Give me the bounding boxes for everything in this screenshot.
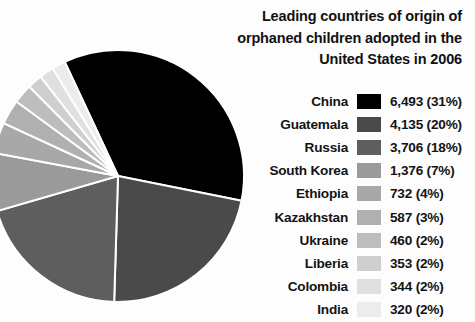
legend-label: Colombia	[246, 279, 348, 294]
legend-row: Guatemala4,135 (20%)	[246, 113, 475, 136]
legend-value: 460 (2%)	[390, 233, 444, 248]
legend-row: Ethiopia732 (4%)	[246, 182, 475, 205]
chart-figure: Leading countries of origin of orphaned …	[0, 0, 475, 322]
legend-value: 4,135 (20%)	[390, 117, 462, 132]
legend-label: China	[246, 94, 348, 109]
legend-label: Kazakhstan	[246, 210, 348, 225]
legend-value: 344 (2%)	[390, 279, 444, 294]
legend-label: Ukraine	[246, 233, 348, 248]
legend-row: India320 (2%)	[246, 298, 475, 321]
pie-chart-svg	[0, 0, 250, 322]
legend-row: Russia3,706 (18%)	[246, 136, 475, 159]
legend-color-swatch	[357, 210, 381, 225]
chart-title: Leading countries of origin of orphaned …	[230, 6, 462, 71]
legend-color-swatch	[357, 256, 381, 271]
legend-color-swatch	[357, 186, 381, 201]
legend-value: 320 (2%)	[390, 302, 444, 317]
legend-label: Liberia	[246, 256, 348, 271]
legend-row: Kazakhstan587 (3%)	[246, 205, 475, 228]
legend-color-swatch	[357, 233, 381, 248]
legend-value: 587 (3%)	[390, 210, 444, 225]
legend-color-swatch	[357, 163, 381, 178]
pie-chart	[0, 0, 250, 322]
legend-value: 6,493 (31%)	[390, 94, 462, 109]
chart-title-line-1: Leading countries of origin of	[230, 6, 462, 28]
legend-row: Ukraine460 (2%)	[246, 229, 475, 252]
chart-title-line-2: orphaned children adopted in the	[230, 28, 462, 50]
legend-color-swatch	[357, 117, 381, 132]
legend-color-swatch	[357, 302, 381, 317]
legend-color-swatch	[357, 140, 381, 155]
legend-value: 353 (2%)	[390, 256, 444, 271]
legend-row: China6,493 (31%)	[246, 90, 475, 113]
legend-row: South Korea1,376 (7%)	[246, 159, 475, 182]
legend-label: Ethiopia	[246, 186, 348, 201]
legend-value: 732 (4%)	[390, 186, 444, 201]
legend-value: 3,706 (18%)	[390, 140, 462, 155]
legend-value: 1,376 (7%)	[390, 163, 455, 178]
legend-label: Guatemala	[246, 117, 348, 132]
legend-label: South Korea	[246, 163, 348, 178]
legend-color-swatch	[357, 94, 381, 109]
legend-row: Liberia353 (2%)	[246, 252, 475, 275]
legend-color-swatch	[357, 279, 381, 294]
legend-row: Colombia344 (2%)	[246, 275, 475, 298]
legend-label: Russia	[246, 140, 348, 155]
chart-legend: China6,493 (31%)Guatemala4,135 (20%)Russ…	[246, 90, 475, 321]
chart-title-line-3: United States in 2006	[230, 49, 462, 71]
legend-label: India	[246, 302, 348, 317]
